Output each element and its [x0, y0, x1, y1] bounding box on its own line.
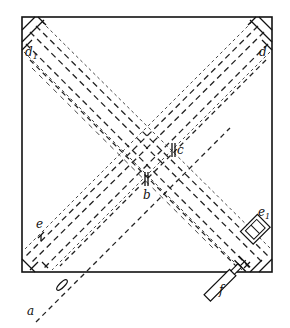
label-e: e — [36, 217, 43, 231]
label-b: b — [143, 188, 151, 202]
interferometer-diagram: d1 d c b e e1 f a — [0, 0, 290, 328]
label-d1: d1 — [25, 45, 38, 61]
label-d: d — [259, 45, 267, 59]
label-a: a — [27, 304, 34, 318]
mirror-bottom-left — [22, 259, 48, 272]
plate-c — [172, 143, 175, 157]
telescope-f — [202, 255, 251, 304]
square-frame — [22, 17, 272, 272]
label-e1: e1 — [258, 205, 270, 221]
plate-b — [145, 172, 148, 186]
label-c: c — [177, 143, 184, 157]
lens-source — [55, 278, 68, 291]
